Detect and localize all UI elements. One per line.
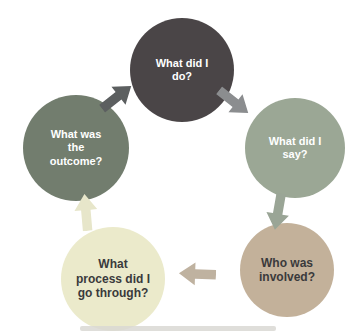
step-label: Who was involved? [259,256,315,285]
cycle-arrow-left-icon [177,258,216,289]
step-label: What did I do? [156,57,209,83]
step-label: What did I say? [269,135,322,161]
step-circle-who-was-involved: Who was involved? [240,223,334,317]
cropped-caption-artifact [80,326,276,331]
step-circle-what-process-did-i-go-through: What process did I go through? [61,227,165,331]
step-label: What process did I go through? [76,257,150,300]
step-circle-what-did-i-say: What did I say? [245,98,345,198]
step-label: What was the outcome? [50,128,103,168]
reflection-cycle-diagram: What did I do? What did I say? Who was i… [0,0,349,331]
cycle-arrow-up-icon [69,192,102,232]
